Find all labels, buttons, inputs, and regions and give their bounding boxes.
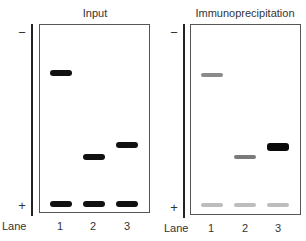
ip-band-lane3-bottom	[267, 203, 289, 207]
ip-band-lane1-bottom	[201, 203, 223, 207]
input-band-lane2-mid	[83, 154, 105, 160]
ip-band-lane2-bottom	[234, 203, 256, 207]
input-lane-label-1: 1	[57, 220, 63, 232]
input-band-lane1-bottom	[50, 201, 72, 207]
lane-axis-label: Lane	[2, 220, 26, 232]
ip-band-lane3-mid	[267, 143, 289, 151]
input-gel	[39, 24, 150, 213]
ip-lane-label-2: 2	[242, 222, 248, 234]
ip-gel	[190, 24, 301, 215]
ip-band-lane2-mid	[234, 155, 256, 159]
input-band-lane3-mid	[116, 142, 138, 148]
input-plus-label: +	[18, 199, 26, 212]
ip-band-lane1-top	[201, 73, 223, 77]
ip-lane-label-1: 1	[208, 222, 214, 234]
input-lane-label-2: 2	[90, 220, 96, 232]
input-band-lane3-bottom	[116, 201, 138, 207]
ip-minus-label: −	[170, 26, 178, 39]
input-band-lane2-bottom	[83, 201, 105, 207]
ip-plus-label: +	[170, 201, 178, 214]
ip-lane-axis-label: Lane	[164, 222, 188, 234]
ip-lane-label-3: 3	[275, 222, 281, 234]
input-lane-label-3: 3	[124, 220, 130, 232]
ip-panel-title: Immunoprecipitation	[195, 7, 294, 19]
ip-migration-axis	[183, 24, 185, 218]
input-migration-axis	[31, 24, 33, 216]
input-minus-label: −	[18, 26, 26, 39]
input-panel-title: Input	[83, 7, 107, 19]
input-band-lane1-top	[50, 70, 72, 76]
